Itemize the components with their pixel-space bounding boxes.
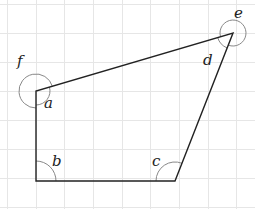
angle-arc-d xyxy=(218,38,227,48)
angle-label-d: d xyxy=(203,51,213,69)
angle-label-f: f xyxy=(16,52,25,70)
angle-label-a: a xyxy=(44,94,53,112)
quadrilateral-diagram: f a b c d e xyxy=(0,0,255,209)
angle-label-e: e xyxy=(234,4,243,22)
angle-label-c: c xyxy=(152,152,161,170)
angle-label-b: b xyxy=(52,152,62,170)
